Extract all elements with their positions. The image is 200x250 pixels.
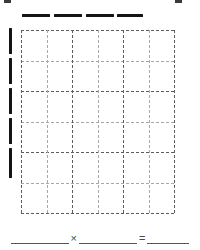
row-bar [9,148,12,178]
factor-2-blank[interactable] [79,232,137,244]
row-bar [9,58,12,84]
grid-line-vertical [123,30,124,213]
grid-line-vertical [72,30,73,213]
grid-line-vertical [21,30,22,213]
grid-line-horizontal [21,213,174,214]
grid-line-vertical [174,30,175,213]
equals-symbol: = [137,233,147,244]
grid-line-vertical [98,30,99,213]
grid-line-vertical [149,30,150,213]
row-bar [9,28,12,54]
column-bar [117,14,143,17]
equation-row: × = [0,232,200,244]
row-bar [9,88,12,114]
column-bar [54,14,82,17]
crop-mark-top-left [4,0,11,3]
multiply-symbol: × [69,233,79,244]
array-grid [21,30,174,213]
crop-mark-top-right [175,0,182,3]
column-bar [86,14,114,17]
grid-line-vertical [47,30,48,213]
worksheet-page: × = [0,0,200,250]
product-blank[interactable] [147,232,189,244]
column-bar [22,14,50,17]
factor-1-blank[interactable] [11,232,69,244]
row-bar [9,118,12,144]
